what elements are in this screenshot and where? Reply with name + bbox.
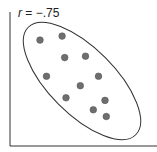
scatter-plot [0, 0, 157, 152]
correlation-label: r = −.75 [18, 6, 59, 20]
data-point [61, 54, 68, 61]
data-point [43, 73, 50, 80]
data-point [59, 33, 66, 40]
data-point [82, 53, 89, 60]
data-point [103, 113, 110, 120]
correlation-ellipse [5, 4, 157, 152]
data-point [90, 107, 97, 114]
data-point [63, 95, 70, 102]
data-point [102, 97, 109, 104]
data-point [77, 82, 84, 89]
data-point [95, 73, 102, 80]
data-points [37, 33, 110, 120]
data-point [37, 37, 44, 44]
